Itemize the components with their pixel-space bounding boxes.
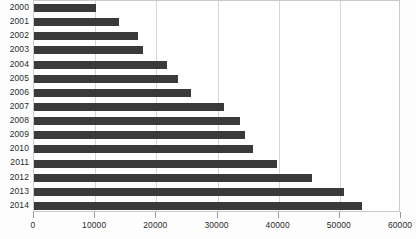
y-axis-tick-label: 2013 <box>10 184 29 198</box>
bar-row <box>34 171 399 185</box>
bar-row <box>34 142 399 156</box>
x-axis-tick-label: 0 <box>31 220 36 230</box>
bar-row <box>34 29 399 43</box>
bar[interactable] <box>34 89 191 97</box>
bar-row <box>34 128 399 142</box>
bar[interactable] <box>34 4 96 12</box>
y-axis-tick-label: 2010 <box>10 141 29 155</box>
y-axis-tick-label: 2012 <box>10 170 29 184</box>
bar-row <box>34 15 399 29</box>
bar[interactable] <box>34 32 138 40</box>
x-axis-tick-label: 40000 <box>266 220 290 230</box>
bar[interactable] <box>34 117 240 125</box>
y-axis-tick-label: 2005 <box>10 71 29 85</box>
y-axis-tick-label: 2001 <box>10 14 29 28</box>
bar-row <box>34 114 399 128</box>
bar[interactable] <box>34 18 119 26</box>
bar-row <box>34 185 399 199</box>
x-axis-tick-mark <box>155 212 156 218</box>
y-axis-tick-label: 2009 <box>10 127 29 141</box>
bar-row <box>34 100 399 114</box>
y-axis-tick-label: 2004 <box>10 57 29 71</box>
y-axis-tick-label: 2008 <box>10 113 29 127</box>
bar-series <box>34 1 399 211</box>
x-axis-value-labels: 0100002000030000400005000060000 <box>33 212 400 239</box>
bar-chart: 2000200120022003200420052006200720082009… <box>0 0 416 239</box>
y-axis-tick-label: 2003 <box>10 42 29 56</box>
bar[interactable] <box>34 174 312 182</box>
y-axis-tick-label: 2006 <box>10 85 29 99</box>
bar-row <box>34 86 399 100</box>
bar[interactable] <box>34 75 178 83</box>
x-axis-tick-label: 60000 <box>388 220 412 230</box>
bar[interactable] <box>34 202 362 210</box>
x-axis-tick-label: 30000 <box>204 220 228 230</box>
bar[interactable] <box>34 103 224 111</box>
bar-row <box>34 156 399 170</box>
bar[interactable] <box>34 61 167 69</box>
x-axis-tick-mark <box>94 212 95 218</box>
y-axis-category-labels: 2000200120022003200420052006200720082009… <box>0 0 31 212</box>
bar[interactable] <box>34 46 143 54</box>
bar[interactable] <box>34 145 253 153</box>
y-axis-tick-label: 2000 <box>10 0 29 14</box>
x-axis-tick-mark <box>278 212 279 218</box>
bar-row <box>34 72 399 86</box>
bar[interactable] <box>34 160 277 168</box>
y-axis-tick-label: 2011 <box>10 155 29 169</box>
x-axis-tick-mark <box>33 212 34 218</box>
x-axis-tick-label: 50000 <box>327 220 351 230</box>
y-axis-tick-label: 2014 <box>10 198 29 212</box>
x-axis-tick-label: 20000 <box>143 220 167 230</box>
bar-row <box>34 1 399 15</box>
bar-row <box>34 58 399 72</box>
y-axis-tick-label: 2002 <box>10 28 29 42</box>
y-axis-tick-label: 2007 <box>10 99 29 113</box>
plot-area <box>33 0 400 212</box>
x-axis-tick-label: 10000 <box>82 220 106 230</box>
x-axis-tick-mark <box>217 212 218 218</box>
bar-row <box>34 43 399 57</box>
bar[interactable] <box>34 188 344 196</box>
x-axis-tick-mark <box>339 212 340 218</box>
x-axis-tick-mark <box>400 212 401 218</box>
bar-row <box>34 199 399 212</box>
bar[interactable] <box>34 131 245 139</box>
